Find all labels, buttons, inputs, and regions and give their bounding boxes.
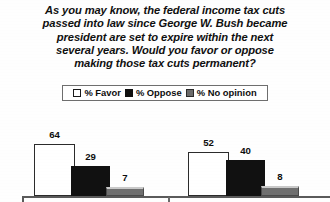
gray-square-icon — [186, 89, 194, 97]
bar-label-group1-oppose: 29 — [71, 152, 110, 162]
title-line-5: making those tax cuts permanent? — [0, 57, 330, 70]
bar-group2-favor — [188, 152, 229, 196]
title-line-4: several years. Would you favor or oppose — [0, 44, 330, 57]
bar-group1-no-opinion — [106, 187, 144, 196]
legend-item-oppose: % Oppose — [125, 88, 182, 98]
bar-label-group1-no-opinion: 7 — [106, 173, 144, 183]
legend-item-favor: % Favor — [73, 88, 120, 98]
bar-group1-favor — [34, 144, 75, 196]
white-square-icon — [73, 89, 81, 97]
chart-baseline-axis — [22, 196, 330, 198]
bar-group2-oppose — [226, 160, 265, 196]
chart-legend: % Favor % Oppose % No opinion — [62, 85, 268, 101]
bar-label-group1-favor: 64 — [34, 130, 75, 140]
legend-item-no-opinion: % No opinion — [186, 88, 257, 98]
title-line-1: As you may know, the federal income tax … — [0, 4, 330, 17]
bar-label-group2-favor: 52 — [188, 138, 229, 148]
chart-plot-area: 64 29 7 52 40 8 — [0, 110, 330, 202]
bar-label-group2-no-opinion: 8 — [261, 172, 299, 182]
bar-group2-no-opinion — [261, 186, 299, 196]
axis-left-cap — [22, 196, 24, 202]
legend-label-favor: % Favor — [84, 88, 120, 98]
black-square-icon — [125, 89, 133, 97]
title-line-2: passed into law since George W. Bush bec… — [0, 17, 330, 30]
legend-label-no-opinion: % No opinion — [197, 88, 257, 98]
poll-chart-figure: As you may know, the federal income tax … — [0, 0, 330, 202]
bar-label-group2-oppose: 40 — [226, 146, 265, 156]
bar-group1-oppose — [71, 166, 110, 196]
title-line-3: president are set to expire within the n… — [0, 31, 330, 44]
bar-chart: 64 29 7 52 40 8 — [0, 110, 330, 202]
legend-label-oppose: % Oppose — [136, 88, 182, 98]
page-title: As you may know, the federal income tax … — [0, 4, 330, 70]
axis-group-separator-tick — [168, 197, 170, 202]
